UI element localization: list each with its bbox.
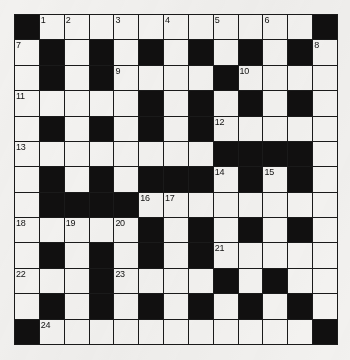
grid-cell-open[interactable] bbox=[313, 218, 337, 242]
grid-cell-open[interactable] bbox=[263, 91, 287, 115]
grid-cell-open[interactable] bbox=[65, 66, 89, 90]
grid-cell-open[interactable]: 22 bbox=[15, 269, 39, 293]
grid-cell-open[interactable] bbox=[15, 66, 39, 90]
grid-cell-open[interactable] bbox=[313, 66, 337, 90]
grid-cell-open[interactable] bbox=[239, 15, 263, 39]
grid-cell-open[interactable] bbox=[139, 66, 163, 90]
grid-cell-open[interactable]: 15 bbox=[263, 167, 287, 191]
grid-cell-open[interactable] bbox=[263, 243, 287, 267]
grid-cell-open[interactable] bbox=[90, 91, 114, 115]
grid-cell-open[interactable] bbox=[313, 243, 337, 267]
grid-cell-open[interactable] bbox=[288, 117, 312, 141]
grid-cell-open[interactable] bbox=[139, 320, 163, 344]
grid-cell-open[interactable] bbox=[313, 269, 337, 293]
grid-cell-open[interactable] bbox=[90, 142, 114, 166]
grid-cell-open[interactable] bbox=[189, 193, 213, 217]
grid-cell-open[interactable] bbox=[114, 142, 138, 166]
grid-cell-open[interactable] bbox=[164, 294, 188, 318]
grid-cell-open[interactable] bbox=[313, 142, 337, 166]
grid-cell-open[interactable]: 3 bbox=[114, 15, 138, 39]
grid-cell-open[interactable] bbox=[15, 243, 39, 267]
grid-cell-open[interactable] bbox=[263, 66, 287, 90]
grid-cell-open[interactable] bbox=[263, 193, 287, 217]
grid-cell-open[interactable]: 5 bbox=[214, 15, 238, 39]
grid-cell-open[interactable] bbox=[239, 193, 263, 217]
grid-cell-open[interactable] bbox=[139, 15, 163, 39]
grid-cell-open[interactable] bbox=[263, 320, 287, 344]
grid-cell-open[interactable] bbox=[189, 15, 213, 39]
grid-cell-open[interactable] bbox=[313, 117, 337, 141]
grid-cell-open[interactable] bbox=[65, 117, 89, 141]
grid-cell-open[interactable] bbox=[114, 40, 138, 64]
grid-cell-open[interactable] bbox=[164, 66, 188, 90]
grid-cell-open[interactable] bbox=[214, 320, 238, 344]
grid-cell-open[interactable]: 7 bbox=[15, 40, 39, 64]
grid-cell-open[interactable]: 19 bbox=[65, 218, 89, 242]
grid-cell-open[interactable] bbox=[189, 66, 213, 90]
grid-cell-open[interactable] bbox=[15, 167, 39, 191]
grid-cell-open[interactable] bbox=[214, 40, 238, 64]
grid-cell-open[interactable] bbox=[90, 15, 114, 39]
grid-cell-open[interactable]: 4 bbox=[164, 15, 188, 39]
grid-cell-open[interactable]: 11 bbox=[15, 91, 39, 115]
grid-cell-open[interactable] bbox=[15, 117, 39, 141]
grid-cell-open[interactable] bbox=[164, 320, 188, 344]
grid-cell-open[interactable] bbox=[313, 193, 337, 217]
grid-cell-open[interactable] bbox=[214, 193, 238, 217]
grid-cell-open[interactable] bbox=[114, 91, 138, 115]
grid-cell-open[interactable] bbox=[90, 320, 114, 344]
grid-cell-open[interactable] bbox=[288, 66, 312, 90]
grid-cell-open[interactable] bbox=[189, 320, 213, 344]
grid-cell-open[interactable]: 9 bbox=[114, 66, 138, 90]
grid-cell-open[interactable]: 8 bbox=[313, 40, 337, 64]
grid-cell-open[interactable] bbox=[65, 243, 89, 267]
grid-cell-open[interactable]: 18 bbox=[15, 218, 39, 242]
grid-cell-open[interactable] bbox=[139, 269, 163, 293]
grid-cell-open[interactable] bbox=[189, 269, 213, 293]
grid-cell-open[interactable] bbox=[239, 243, 263, 267]
grid-cell-open[interactable] bbox=[214, 294, 238, 318]
grid-cell-open[interactable] bbox=[313, 294, 337, 318]
grid-cell-open[interactable]: 17 bbox=[164, 193, 188, 217]
grid-cell-open[interactable] bbox=[114, 117, 138, 141]
grid-cell-open[interactable] bbox=[214, 218, 238, 242]
grid-cell-open[interactable] bbox=[239, 320, 263, 344]
grid-cell-open[interactable] bbox=[65, 294, 89, 318]
grid-cell-open[interactable] bbox=[164, 218, 188, 242]
grid-cell-open[interactable]: 16 bbox=[139, 193, 163, 217]
grid-cell-open[interactable] bbox=[189, 142, 213, 166]
grid-cell-open[interactable] bbox=[90, 218, 114, 242]
grid-cell-open[interactable]: 1 bbox=[40, 15, 64, 39]
grid-cell-open[interactable] bbox=[288, 320, 312, 344]
grid-cell-open[interactable]: 20 bbox=[114, 218, 138, 242]
grid-cell-open[interactable] bbox=[15, 294, 39, 318]
grid-cell-open[interactable] bbox=[139, 142, 163, 166]
grid-cell-open[interactable] bbox=[164, 142, 188, 166]
grid-cell-open[interactable] bbox=[65, 320, 89, 344]
grid-cell-open[interactable] bbox=[40, 142, 64, 166]
grid-cell-open[interactable] bbox=[288, 269, 312, 293]
grid-cell-open[interactable]: 2 bbox=[65, 15, 89, 39]
grid-cell-open[interactable] bbox=[164, 117, 188, 141]
grid-cell-open[interactable] bbox=[65, 269, 89, 293]
grid-cell-open[interactable] bbox=[65, 142, 89, 166]
grid-cell-open[interactable] bbox=[40, 218, 64, 242]
grid-cell-open[interactable] bbox=[263, 40, 287, 64]
grid-cell-open[interactable] bbox=[288, 193, 312, 217]
grid-cell-open[interactable] bbox=[164, 243, 188, 267]
grid-cell-open[interactable] bbox=[313, 91, 337, 115]
grid-cell-open[interactable]: 14 bbox=[214, 167, 238, 191]
grid-cell-open[interactable] bbox=[263, 294, 287, 318]
grid-cell-open[interactable] bbox=[164, 91, 188, 115]
grid-cell-open[interactable] bbox=[239, 269, 263, 293]
grid-cell-open[interactable] bbox=[114, 243, 138, 267]
grid-cell-open[interactable] bbox=[40, 91, 64, 115]
grid-cell-open[interactable]: 23 bbox=[114, 269, 138, 293]
grid-cell-open[interactable] bbox=[164, 269, 188, 293]
grid-cell-open[interactable]: 13 bbox=[15, 142, 39, 166]
grid-cell-open[interactable] bbox=[15, 193, 39, 217]
grid-cell-open[interactable] bbox=[114, 167, 138, 191]
grid-cell-open[interactable] bbox=[239, 117, 263, 141]
grid-cell-open[interactable] bbox=[65, 40, 89, 64]
grid-cell-open[interactable] bbox=[65, 91, 89, 115]
